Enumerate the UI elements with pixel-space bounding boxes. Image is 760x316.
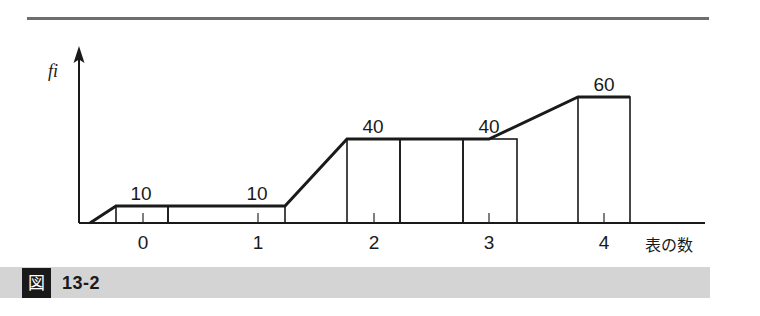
bar-value-label-1: 10	[246, 183, 267, 204]
bar-2	[347, 139, 400, 223]
bar-value-label-3: 40	[478, 116, 499, 137]
figure-badge-icon: 図	[22, 268, 51, 298]
y-axis	[74, 46, 85, 223]
top-divider-rule	[27, 17, 709, 20]
x-tick-label-2: 2	[369, 232, 380, 253]
frequency-polygon-line	[90, 97, 630, 223]
x-tick-label-1: 1	[253, 232, 264, 253]
x-tick-label-0: 0	[138, 232, 149, 253]
caption-bar	[0, 267, 710, 298]
chart-figure: fi	[0, 24, 760, 264]
bar-3	[400, 139, 463, 223]
bar-value-label-2: 40	[362, 116, 383, 137]
figure-caption-number: 13-2	[62, 270, 100, 296]
bar-1	[168, 206, 285, 223]
x-tick-label-3: 3	[484, 232, 495, 253]
bar-5	[578, 97, 630, 223]
bar-4	[463, 139, 517, 223]
x-axis-label: 表の数	[645, 236, 693, 255]
bar-value-label-4: 60	[593, 74, 614, 95]
y-axis-label: fi	[48, 61, 58, 81]
x-axis-ticks	[143, 213, 604, 223]
bar-0	[116, 206, 168, 223]
figure-page: fi	[0, 0, 760, 316]
x-tick-label-4: 4	[599, 232, 610, 253]
bar-value-label-0: 10	[130, 183, 151, 204]
